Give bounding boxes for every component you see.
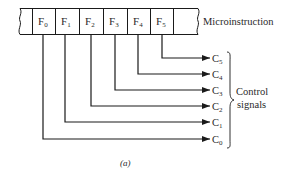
wire-f4-c4 bbox=[138, 35, 210, 75]
control-signals-label-line1: Control bbox=[236, 86, 268, 97]
control-signals-label-line2: signals bbox=[237, 99, 266, 110]
curly-brace bbox=[227, 52, 234, 148]
microinstruction-label: Microinstruction bbox=[203, 16, 274, 27]
field-f3: F3 bbox=[109, 15, 119, 29]
wire-f2-c2 bbox=[91, 35, 210, 107]
signal-c1: C1 bbox=[212, 117, 223, 130]
wire-f0-c0 bbox=[43, 35, 210, 140]
signal-c4: C4 bbox=[212, 69, 223, 82]
signal-c3: C3 bbox=[212, 85, 223, 98]
figure-caption: (a) bbox=[120, 158, 131, 168]
field-f1: F1 bbox=[61, 15, 71, 29]
wire-f5-c5 bbox=[162, 35, 210, 59]
field-f4: F4 bbox=[133, 15, 143, 29]
field-f0: F0 bbox=[38, 15, 48, 29]
field-f2: F2 bbox=[85, 15, 95, 29]
right-break-edge bbox=[197, 9, 199, 35]
signal-c5: C5 bbox=[212, 53, 223, 66]
signal-c0: C0 bbox=[212, 134, 223, 147]
signal-wires bbox=[43, 35, 210, 140]
left-break-edge bbox=[19, 9, 21, 35]
microinstruction-diagram: F0 F1 F2 F3 F4 F5 Microinstruction C5 C4… bbox=[0, 0, 283, 177]
field-f5: F5 bbox=[156, 15, 166, 29]
signal-c2: C2 bbox=[212, 101, 223, 114]
